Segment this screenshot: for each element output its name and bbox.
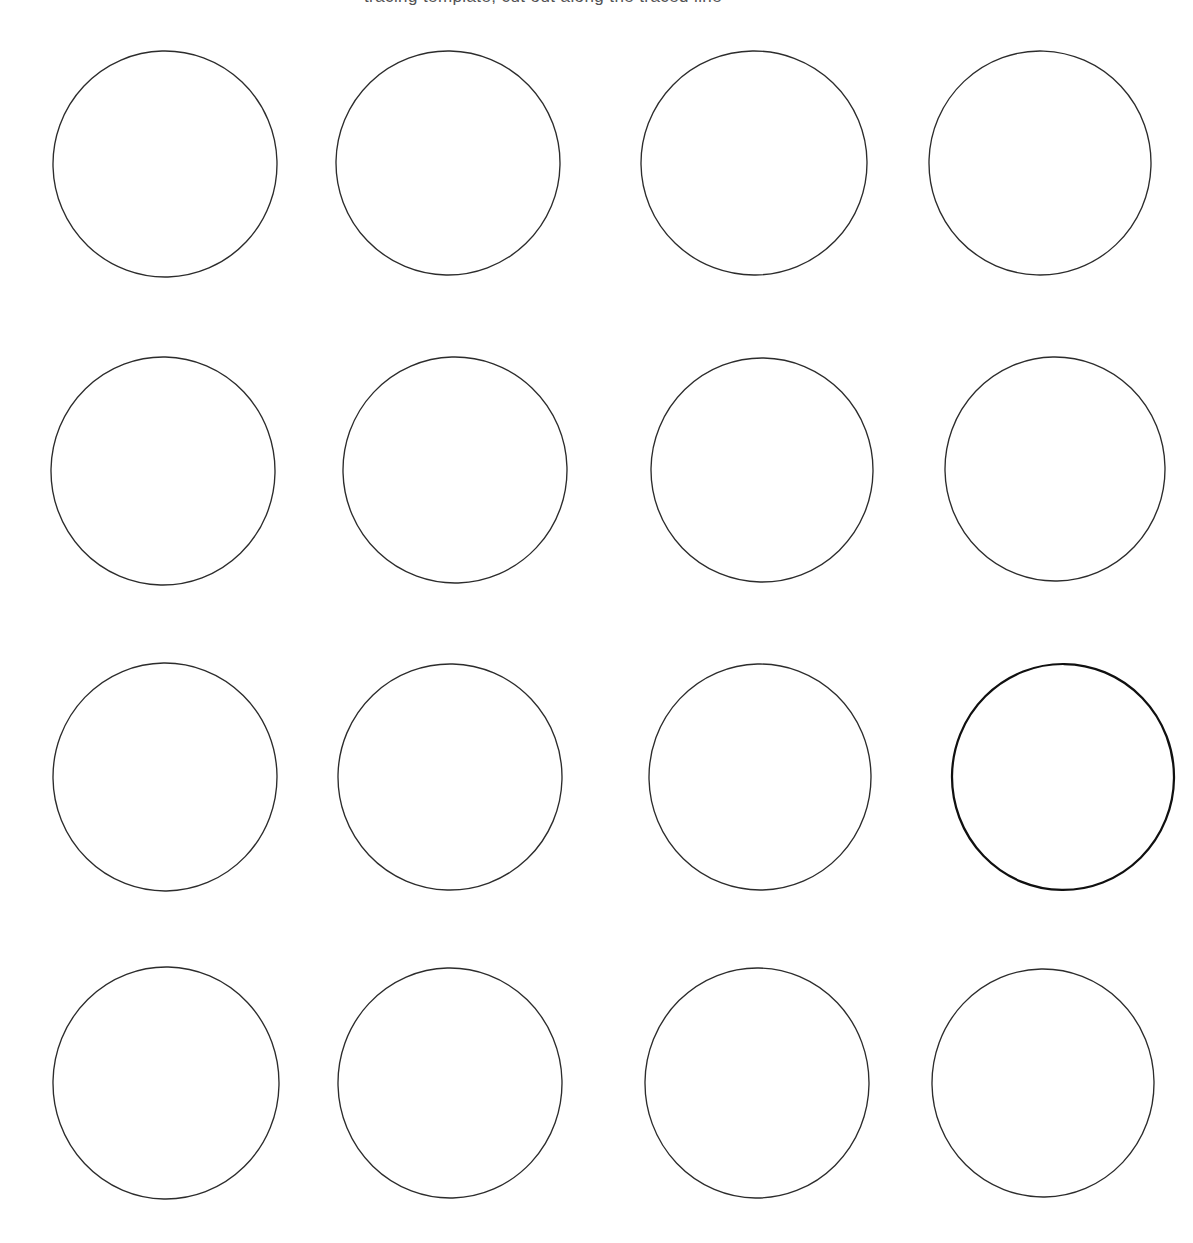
circle-grid — [0, 0, 1193, 1243]
circle-r3c3 — [640, 655, 879, 898]
circle-r4c4 — [924, 961, 1162, 1205]
circle-outline — [334, 49, 562, 277]
circle-r1c3 — [633, 43, 874, 282]
circle-outline — [52, 662, 279, 893]
circle-r3c4 — [945, 657, 1181, 897]
circle-r2c3 — [643, 350, 881, 590]
circle-r1c2 — [328, 43, 568, 283]
circle-outline — [639, 49, 868, 276]
circle-outline — [943, 355, 1167, 583]
circle-outline — [340, 354, 570, 586]
circle-outline — [930, 967, 1156, 1198]
circle-r1c4 — [919, 41, 1160, 284]
circle-outline — [50, 48, 280, 280]
circle-outline — [51, 965, 281, 1201]
circle-outline — [335, 661, 564, 892]
circle-r2c1 — [43, 349, 284, 594]
circle-outline — [649, 356, 874, 583]
circle-outline — [643, 966, 870, 1199]
circle-r4c2 — [329, 959, 571, 1207]
circle-r2c2 — [334, 348, 577, 592]
circle-outline — [335, 965, 565, 1200]
circle-r3c1 — [46, 656, 285, 899]
circle-r2c4 — [937, 349, 1173, 589]
circle-r4c1 — [45, 959, 288, 1208]
circle-outline — [926, 48, 1155, 279]
circle-outline — [951, 663, 1175, 891]
worksheet-page: tracing template, cut out along the trac… — [0, 0, 1193, 1243]
circle-r1c1 — [44, 42, 286, 286]
circle-outline — [49, 355, 278, 588]
circle-r4c3 — [637, 960, 876, 1205]
circle-r3c2 — [329, 655, 571, 899]
circle-outline — [646, 662, 873, 893]
